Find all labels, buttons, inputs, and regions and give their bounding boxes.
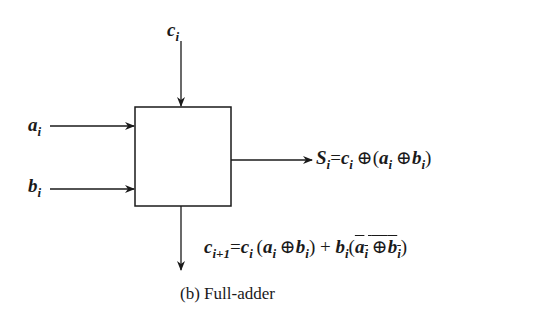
carry-term-c-sub: i — [249, 246, 253, 261]
b-sub: i — [38, 185, 42, 200]
equals-sign: = — [330, 147, 341, 168]
plus-operator: + — [315, 236, 335, 257]
carry-lhs-sub: i+1 — [212, 246, 230, 261]
xor-operator: ⊕ — [372, 236, 388, 257]
xor-operator: ⊕ — [280, 236, 296, 257]
negated-xor-group: ai ⊕bi — [355, 236, 401, 257]
full-adder-block — [135, 107, 231, 206]
xor-operator: ⊕ — [396, 147, 412, 168]
equals-sign: = — [230, 236, 241, 257]
a-input-label: ai — [28, 115, 41, 138]
right-paren: ) — [401, 236, 407, 257]
carry-term-b: b — [296, 236, 306, 257]
carry-in-label: ci — [167, 20, 179, 43]
carry-out-equation: ci+1=ci (ai ⊕bi) + bi(ai ⊕bi) — [204, 237, 407, 260]
carry-term-b2: b — [335, 236, 345, 257]
carry-in-sub: i — [175, 29, 179, 44]
sum-term-a: a — [379, 147, 389, 168]
carry-term-c: c — [241, 236, 249, 257]
b-var: b — [28, 175, 38, 196]
b-input-label: bi — [28, 176, 41, 199]
xor-operator: ⊕ — [357, 147, 373, 168]
sum-equation: Si=ci ⊕(ai ⊕bi) — [316, 148, 431, 171]
carry-term-a: a — [263, 236, 273, 257]
carry-term-b3: b — [388, 236, 398, 257]
sum-term-a-sub: i — [389, 157, 393, 172]
figure-caption: (b) Full-adder — [180, 284, 275, 304]
sum-term-c-sub: i — [349, 157, 353, 172]
carry-term-a2: a — [355, 236, 365, 257]
a-sub: i — [38, 124, 42, 139]
sum-lhs-var: S — [316, 147, 327, 168]
sum-term-b: b — [412, 147, 422, 168]
right-paren: ) — [425, 147, 431, 168]
a-var: a — [28, 114, 38, 135]
carry-term-a-sub: i — [272, 246, 276, 261]
carry-term-a2-sub: i — [364, 246, 368, 261]
